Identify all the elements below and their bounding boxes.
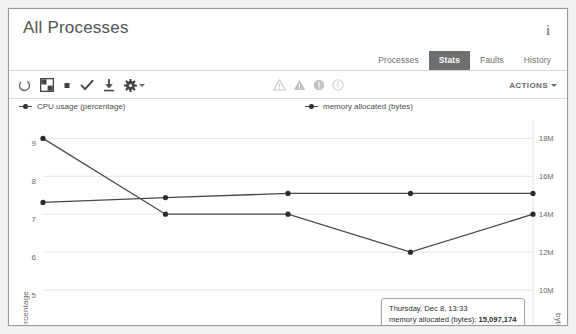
chevron-down-icon — [551, 84, 557, 87]
gear-dropdown-icon[interactable] — [124, 79, 145, 92]
tab-processes[interactable]: Processes — [368, 51, 429, 70]
legend-marker-icon — [19, 103, 32, 110]
svg-text:14M: 14M — [539, 210, 554, 219]
legend-label-cpu: CPU usage (percentage) — [37, 102, 126, 111]
tab-history[interactable]: History — [514, 51, 561, 70]
svg-text:18M: 18M — [539, 134, 554, 143]
tab-stats[interactable]: Stats — [429, 51, 470, 70]
legend-marker-icon — [305, 103, 318, 110]
tooltip-metric-label: memory allocated (bytes): — [389, 315, 476, 324]
tooltip-timestamp: Thursday, Dec 8, 13:33 — [389, 303, 517, 314]
svg-text:6: 6 — [32, 253, 37, 262]
chart-legend: CPU usage (percentage) memory allocated … — [9, 99, 567, 117]
stats-line-chart: 918M816M714M612M510M — [9, 117, 567, 326]
svg-text:8: 8 — [32, 177, 37, 186]
legend-item-cpu[interactable]: CPU usage (percentage) — [19, 102, 126, 111]
y-axis-left-title: percentage — [21, 291, 30, 326]
chart-tooltip: Thursday, Dec 8, 13:33 memory allocated … — [381, 298, 525, 326]
svg-text:5: 5 — [32, 291, 37, 300]
svg-text:12M: 12M — [539, 248, 554, 257]
chart-area: 918M816M714M612M510M Thursday, Dec 8, 13… — [9, 117, 567, 326]
check-icon[interactable] — [80, 79, 94, 92]
all-processes-window: All Processes i Processes Stats Faults H… — [8, 8, 568, 326]
svg-text:16M: 16M — [539, 172, 554, 181]
info-icon[interactable]: i — [541, 21, 555, 39]
tooltip-metric-row: memory allocated (bytes): 15,097,174 — [389, 314, 517, 325]
warning-triangle-filled-icon — [293, 79, 306, 91]
refresh-icon[interactable] — [18, 79, 31, 92]
svg-text:7: 7 — [32, 215, 37, 224]
toolbar: ACTIONS — [9, 71, 567, 99]
app-root: All Processes i Processes Stats Faults H… — [0, 0, 576, 334]
y-axis-right-title: bytes — [554, 313, 563, 326]
warning-triangle-outline-icon — [273, 79, 286, 91]
info-circle-outline-icon — [332, 79, 344, 91]
download-icon[interactable] — [103, 79, 115, 92]
actions-dropdown-button[interactable]: ACTIONS — [509, 81, 557, 90]
gear-caret-icon[interactable] — [139, 84, 145, 87]
toolbar-right-group: ACTIONS — [509, 71, 557, 99]
stop-square-icon[interactable] — [63, 79, 71, 92]
actions-label: ACTIONS — [509, 81, 548, 90]
svg-text:9: 9 — [32, 139, 37, 148]
toolbar-left-group — [18, 71, 145, 99]
tooltip-metric-value: 15,097,174 — [478, 315, 516, 324]
page-title: All Processes — [23, 18, 129, 38]
tab-faults[interactable]: Faults — [470, 51, 514, 70]
legend-label-memory: memory allocated (bytes) — [323, 102, 413, 111]
window-header: All Processes i Processes Stats Faults H… — [9, 9, 567, 71]
info-circle-filled-icon — [313, 79, 325, 91]
gear-icon[interactable] — [124, 79, 137, 92]
grid-layout-icon[interactable] — [40, 78, 54, 92]
tab-bar: Processes Stats Faults History — [368, 51, 561, 70]
legend-item-memory[interactable]: memory allocated (bytes) — [305, 102, 413, 111]
svg-text:10M: 10M — [539, 286, 554, 295]
toolbar-status-group — [273, 71, 344, 99]
